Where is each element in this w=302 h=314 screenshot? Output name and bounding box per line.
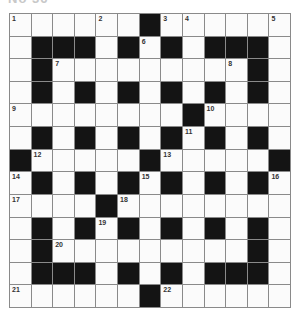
grid-cell[interactable] (75, 195, 96, 217)
grid-cell[interactable] (183, 82, 204, 104)
grid-cell[interactable] (118, 59, 139, 81)
grid-cell[interactable] (248, 14, 269, 36)
grid-cell[interactable] (75, 150, 96, 172)
grid-cell[interactable] (75, 14, 96, 36)
grid-cell[interactable] (10, 218, 31, 240)
grid-cell[interactable]: 6 (140, 37, 161, 59)
grid-cell[interactable] (269, 104, 290, 126)
grid-cell[interactable] (118, 104, 139, 126)
grid-cell[interactable] (205, 240, 226, 262)
grid-cell[interactable] (226, 104, 247, 126)
grid-cell[interactable] (248, 104, 269, 126)
grid-cell[interactable] (96, 59, 117, 81)
grid-cell[interactable] (32, 14, 53, 36)
grid-cell[interactable] (161, 59, 182, 81)
grid-cell[interactable] (269, 37, 290, 59)
grid-cell[interactable] (32, 104, 53, 126)
grid-cell[interactable] (96, 104, 117, 126)
grid-cell[interactable]: 18 (118, 195, 139, 217)
grid-cell[interactable] (96, 285, 117, 307)
grid-cell[interactable] (96, 37, 117, 59)
grid-cell[interactable] (10, 59, 31, 81)
grid-cell[interactable] (226, 285, 247, 307)
grid-cell[interactable] (161, 195, 182, 217)
grid-cell[interactable] (226, 14, 247, 36)
grid-cell[interactable] (32, 195, 53, 217)
grid-cell[interactable] (53, 14, 74, 36)
grid-cell[interactable]: 13 (161, 150, 182, 172)
grid-cell[interactable]: 7 (53, 59, 74, 81)
grid-cell[interactable] (140, 82, 161, 104)
grid-cell[interactable]: 10 (205, 104, 226, 126)
grid-cell[interactable] (248, 285, 269, 307)
grid-cell[interactable] (183, 37, 204, 59)
grid-cell[interactable] (10, 263, 31, 285)
grid-cell[interactable] (96, 150, 117, 172)
grid-cell[interactable] (269, 127, 290, 149)
grid-cell[interactable] (248, 195, 269, 217)
grid-cell[interactable] (96, 82, 117, 104)
grid-cell[interactable] (140, 218, 161, 240)
grid-cell[interactable]: 22 (161, 285, 182, 307)
grid-cell[interactable] (205, 59, 226, 81)
grid-cell[interactable] (53, 82, 74, 104)
grid-cell[interactable] (226, 172, 247, 194)
grid-cell[interactable] (183, 285, 204, 307)
grid-cell[interactable]: 4 (183, 14, 204, 36)
grid-cell[interactable] (75, 240, 96, 262)
grid-cell[interactable] (205, 195, 226, 217)
grid-cell[interactable] (205, 285, 226, 307)
grid-cell[interactable] (140, 127, 161, 149)
grid-cell[interactable] (269, 218, 290, 240)
grid-cell[interactable] (75, 104, 96, 126)
grid-cell[interactable] (161, 104, 182, 126)
grid-cell[interactable]: 3 (161, 14, 182, 36)
grid-cell[interactable]: 2 (96, 14, 117, 36)
grid-cell[interactable]: 17 (10, 195, 31, 217)
grid-cell[interactable] (10, 37, 31, 59)
grid-cell[interactable]: 1 (10, 14, 31, 36)
grid-cell[interactable] (161, 240, 182, 262)
grid-cell[interactable] (53, 172, 74, 194)
grid-cell[interactable] (140, 104, 161, 126)
grid-cell[interactable]: 5 (269, 14, 290, 36)
grid-cell[interactable]: 11 (183, 127, 204, 149)
grid-cell[interactable] (96, 240, 117, 262)
grid-cell[interactable] (183, 172, 204, 194)
grid-cell[interactable]: 12 (32, 150, 53, 172)
grid-cell[interactable] (269, 59, 290, 81)
grid-cell[interactable]: 16 (269, 172, 290, 194)
grid-cell[interactable]: 15 (140, 172, 161, 194)
grid-cell[interactable] (226, 218, 247, 240)
grid-cell[interactable]: 9 (10, 104, 31, 126)
grid-cell[interactable] (226, 82, 247, 104)
grid-cell[interactable] (226, 240, 247, 262)
grid-cell[interactable] (75, 59, 96, 81)
grid-cell[interactable] (53, 195, 74, 217)
grid-cell[interactable] (53, 127, 74, 149)
grid-cell[interactable] (118, 14, 139, 36)
grid-cell[interactable] (226, 150, 247, 172)
grid-cell[interactable] (183, 240, 204, 262)
grid-cell[interactable] (183, 195, 204, 217)
grid-cell[interactable] (269, 240, 290, 262)
grid-cell[interactable] (140, 240, 161, 262)
grid-cell[interactable] (269, 285, 290, 307)
grid-cell[interactable] (269, 263, 290, 285)
grid-cell[interactable] (140, 195, 161, 217)
grid-cell[interactable] (205, 14, 226, 36)
grid-cell[interactable] (53, 104, 74, 126)
grid-cell[interactable]: 14 (10, 172, 31, 194)
grid-cell[interactable]: 19 (96, 218, 117, 240)
grid-cell[interactable] (10, 82, 31, 104)
grid-cell[interactable] (118, 150, 139, 172)
grid-cell[interactable] (140, 263, 161, 285)
grid-cell[interactable] (183, 59, 204, 81)
grid-cell[interactable] (96, 263, 117, 285)
grid-cell[interactable] (96, 172, 117, 194)
grid-cell[interactable] (53, 150, 74, 172)
grid-cell[interactable]: 20 (53, 240, 74, 262)
grid-cell[interactable]: 8 (226, 59, 247, 81)
grid-cell[interactable] (10, 240, 31, 262)
grid-cell[interactable] (248, 150, 269, 172)
